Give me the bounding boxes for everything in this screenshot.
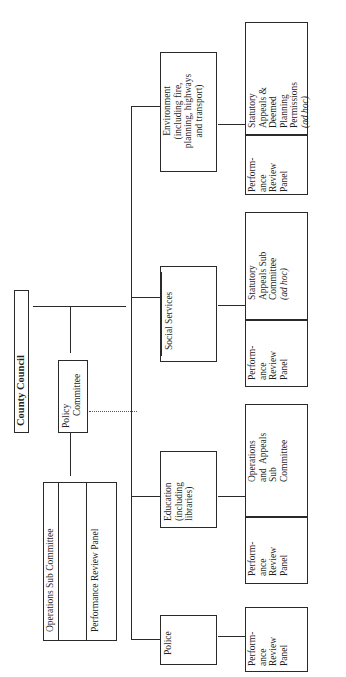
ss-perf-panel-label: Perform- ance Review Panel xyxy=(247,346,289,380)
env-perf-panel-label: Perform- ance Review Panel xyxy=(247,158,289,192)
text-line: Committee xyxy=(268,252,279,300)
ops-sub-committee-label: Operations Sub Committee xyxy=(45,529,56,632)
text-line: ance xyxy=(258,158,269,192)
branch-social-services xyxy=(131,297,160,298)
text-line: Review xyxy=(268,158,279,192)
education-label: Education (including libraries) xyxy=(163,482,195,521)
text-line: Perform- xyxy=(247,346,258,380)
branch-environment xyxy=(131,106,160,107)
text-line: ance xyxy=(258,346,269,380)
text-line: Review xyxy=(268,346,279,380)
policy-dotted-link xyxy=(89,411,137,412)
env-line-4: and transport) xyxy=(194,54,205,168)
text-line: Appeals Sub xyxy=(258,252,269,300)
police-to-children xyxy=(218,636,246,637)
police-label: Police xyxy=(163,631,174,655)
county-council-label: County Council xyxy=(15,296,26,426)
text-line: Education xyxy=(163,482,174,521)
text-line: ance xyxy=(258,542,269,576)
policy-line-2: Committee xyxy=(72,374,83,428)
env-line-1: Environment xyxy=(162,54,173,168)
text-line: Planning xyxy=(279,82,290,128)
text-line: Panel xyxy=(279,158,290,192)
text-line: Panel xyxy=(279,542,290,576)
text-line: Committee xyxy=(279,433,290,482)
text-line: ance xyxy=(258,632,269,666)
text-line: Permissions xyxy=(289,82,300,128)
env-line-3: planning, highways xyxy=(183,54,194,168)
text-line: Review xyxy=(268,632,279,666)
edu-ops-appeals-label: Operations and Appeals Sub Committee xyxy=(247,433,289,482)
text-line: Sub xyxy=(268,433,279,482)
env-statutory-label: Statutory Appeals & Deemed Planning Perm… xyxy=(247,82,311,128)
text-line: Statutory xyxy=(247,252,258,300)
environment-label: Environment (including fire, planning, h… xyxy=(162,54,204,168)
text-line: Perform- xyxy=(247,542,258,576)
branch-police xyxy=(131,639,160,640)
text-line: Perform- xyxy=(247,632,258,666)
council-connector xyxy=(33,306,126,307)
env-line-2: (including fire, xyxy=(173,54,184,168)
text-line: Appeals & xyxy=(258,82,269,128)
education-to-children xyxy=(218,496,246,497)
text-line: libraries) xyxy=(184,482,195,521)
text-line: Statutory xyxy=(247,82,258,128)
text-line: Deemed xyxy=(268,82,279,128)
text-line: Perform- xyxy=(247,158,258,192)
ad-hoc-note: (ad hoc) xyxy=(300,82,311,128)
text-line: Review xyxy=(268,542,279,576)
perf-panel-divider xyxy=(86,482,87,641)
policy-line-1: Policy xyxy=(61,374,72,428)
branch-education xyxy=(131,496,160,497)
text-line: (including xyxy=(174,482,185,521)
council-to-policy-line xyxy=(70,306,71,353)
social-services-to-children xyxy=(218,305,246,306)
ops-sub-divider xyxy=(58,482,59,641)
text-line: and Appeals xyxy=(258,433,269,482)
social-services-accent xyxy=(161,272,162,356)
police-perf-panel-label: Perform- ance Review Panel xyxy=(247,632,289,666)
ad-hoc-note: (ad hoc) xyxy=(279,252,290,300)
environment-to-children xyxy=(218,124,246,125)
social-services-label: Social Services xyxy=(164,292,175,350)
policy-to-subs-line xyxy=(70,433,71,476)
ss-statutory-label: Statutory Appeals Sub Committee (ad hoc) xyxy=(247,252,289,300)
policy-perf-review-panel-label: Performance Review Panel xyxy=(90,529,101,632)
text-line: Operations xyxy=(247,433,258,482)
departments-spine xyxy=(131,106,132,640)
text-line: Panel xyxy=(279,346,290,380)
text-line: Panel xyxy=(279,632,290,666)
policy-committee-label: Policy Committee xyxy=(61,374,82,428)
edu-perf-panel-label: Perform- ance Review Panel xyxy=(247,542,289,576)
